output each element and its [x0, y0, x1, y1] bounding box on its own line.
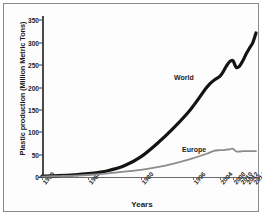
- series-line-europe: [42, 149, 256, 177]
- y-tick-label: 150: [28, 106, 39, 113]
- series-curves: [42, 16, 256, 177]
- y-tick-label: 250: [28, 62, 39, 69]
- chart-figure: Plastic production (Million Metric Tons)…: [0, 0, 262, 215]
- x-axis-title: Years: [42, 200, 242, 209]
- series-line-world: [42, 33, 256, 176]
- series-label-europe: Europe: [182, 146, 206, 153]
- chart-frame: Plastic production (Million Metric Tons)…: [3, 3, 259, 212]
- y-tick-label: 200: [28, 84, 39, 91]
- y-tick-label: 100: [28, 129, 39, 136]
- series-label-world: World: [174, 74, 194, 81]
- y-axis-title: Plastic production (Million Metric Tons): [18, 14, 27, 164]
- y-tick-label: 300: [28, 39, 39, 46]
- plot-area: 050100150200250300350 195019641980199620…: [42, 16, 256, 177]
- y-tick-label: 350: [28, 17, 39, 24]
- y-tick-label: 0: [35, 174, 39, 181]
- y-tick-label: 50: [32, 151, 39, 158]
